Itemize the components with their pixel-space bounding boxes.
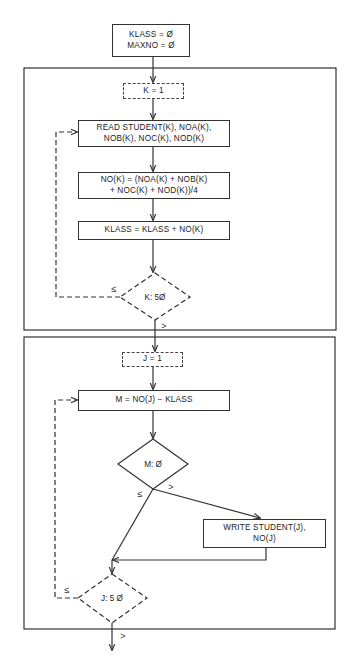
j-init-text: J = 1 — [143, 354, 162, 365]
accumulate-box: KLASS = KLASS + NO(K) — [78, 221, 230, 240]
j-init-box: J = 1 — [122, 352, 183, 367]
init-box: KLASS = Ø MAXNO = Ø — [112, 24, 190, 57]
write-box: WRITE STUDENT(J), NO(J) — [203, 519, 326, 548]
j-exit-label: > — [120, 631, 125, 641]
compute-average-box: NO(K) = (NOA(K) + NOB(K) + NOC(K) + NOD(… — [78, 172, 230, 199]
flowchart-lines — [0, 0, 356, 667]
j-decision-label: J: 5 Ø — [101, 594, 123, 603]
m-branch-gt-label: > — [168, 482, 173, 492]
m-decision-label: M: Ø — [144, 460, 162, 469]
difference-text: M = NO(J) − KLASS — [115, 395, 192, 406]
read-box-text: READ STUDENT(K), NOA(K), NOB(K), NOC(K),… — [97, 123, 212, 144]
m-branch-le-label: ≤ — [138, 489, 143, 499]
j-loop-label: ≤ — [65, 585, 70, 595]
k-exit-label: > — [161, 321, 166, 331]
accumulate-text: KLASS = KLASS + NO(K) — [105, 225, 204, 236]
section-frame-1 — [24, 68, 336, 330]
init-box-text: KLASS = Ø MAXNO = Ø — [127, 30, 175, 51]
difference-box: M = NO(J) − KLASS — [78, 390, 230, 411]
k-init-text: K = 1 — [143, 86, 163, 97]
write-box-text: WRITE STUDENT(J), NO(J) — [223, 523, 306, 544]
read-box: READ STUDENT(K), NOA(K), NOB(K), NOC(K),… — [78, 120, 230, 147]
compute-average-text: NO(K) = (NOA(K) + NOB(K) + NOC(K) + NOD(… — [101, 175, 208, 196]
section-frame-2 — [24, 337, 335, 629]
k-loop-label: ≤ — [112, 284, 117, 294]
k-init-box: K = 1 — [123, 83, 184, 99]
k-decision-label: K: 5Ø — [145, 293, 166, 302]
